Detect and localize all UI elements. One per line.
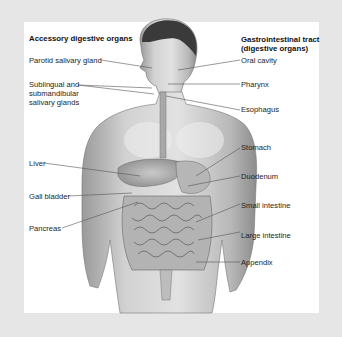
right-group-heading-line2: (digestive organs) — [241, 44, 308, 54]
label-pancreas: Pancreas — [29, 224, 61, 233]
large-intestine — [122, 196, 212, 270]
label-parotid-salivary-gland: Parotid salivary gland — [29, 56, 102, 65]
label-oral-cavity: Oral cavity — [241, 56, 277, 65]
label-sublingual-line2: submandibular — [29, 89, 79, 98]
label-large-intestine: Large intestine — [241, 231, 291, 240]
label-sublingual-line1: Sublingual and — [29, 80, 79, 89]
label-esophagus: Esophagus — [241, 105, 279, 114]
label-liver: Liver — [29, 159, 45, 168]
label-stomach: Stomach — [241, 143, 271, 152]
rectum — [160, 270, 172, 300]
label-sublingual-line3: salivary glands — [29, 98, 79, 107]
label-pharynx: Pharynx — [241, 80, 269, 89]
label-appendix: Appendix — [241, 258, 273, 267]
label-gall-bladder: Gall bladder — [29, 192, 70, 201]
label-small-intestine: Small intestine — [241, 201, 290, 210]
label-duodenum: Duodenum — [241, 172, 278, 181]
left-group-heading: Accessory digestive organs — [29, 34, 133, 44]
